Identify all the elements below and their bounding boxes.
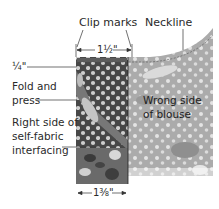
right-side-label: Right side of self-fabric interfacing — [12, 116, 78, 156]
neckline-label: Neckline — [145, 17, 192, 29]
quarter-inch-label: ¼" — [12, 61, 26, 73]
right-side-line-2: self-fabric — [12, 130, 78, 142]
wrong-side-label: Wrong side of blouse — [143, 94, 202, 120]
fold-line-2: press — [12, 94, 57, 106]
wrong-side-line-2: of blouse — [143, 108, 202, 120]
clip-marks-label: Clip marks — [79, 17, 137, 29]
fold-line-1: Fold and — [12, 80, 57, 92]
wrong-side-line-1: Wrong side — [143, 94, 202, 106]
fold-and-press-label: Fold and press — [12, 80, 57, 106]
right-side-line-1: Right side of — [12, 116, 78, 128]
top-width-label: 1½" — [97, 44, 118, 56]
right-side-line-3: interfacing — [12, 144, 78, 156]
bottom-width-label: 1⅜" — [93, 187, 114, 199]
interfacing-panel — [76, 57, 128, 184]
